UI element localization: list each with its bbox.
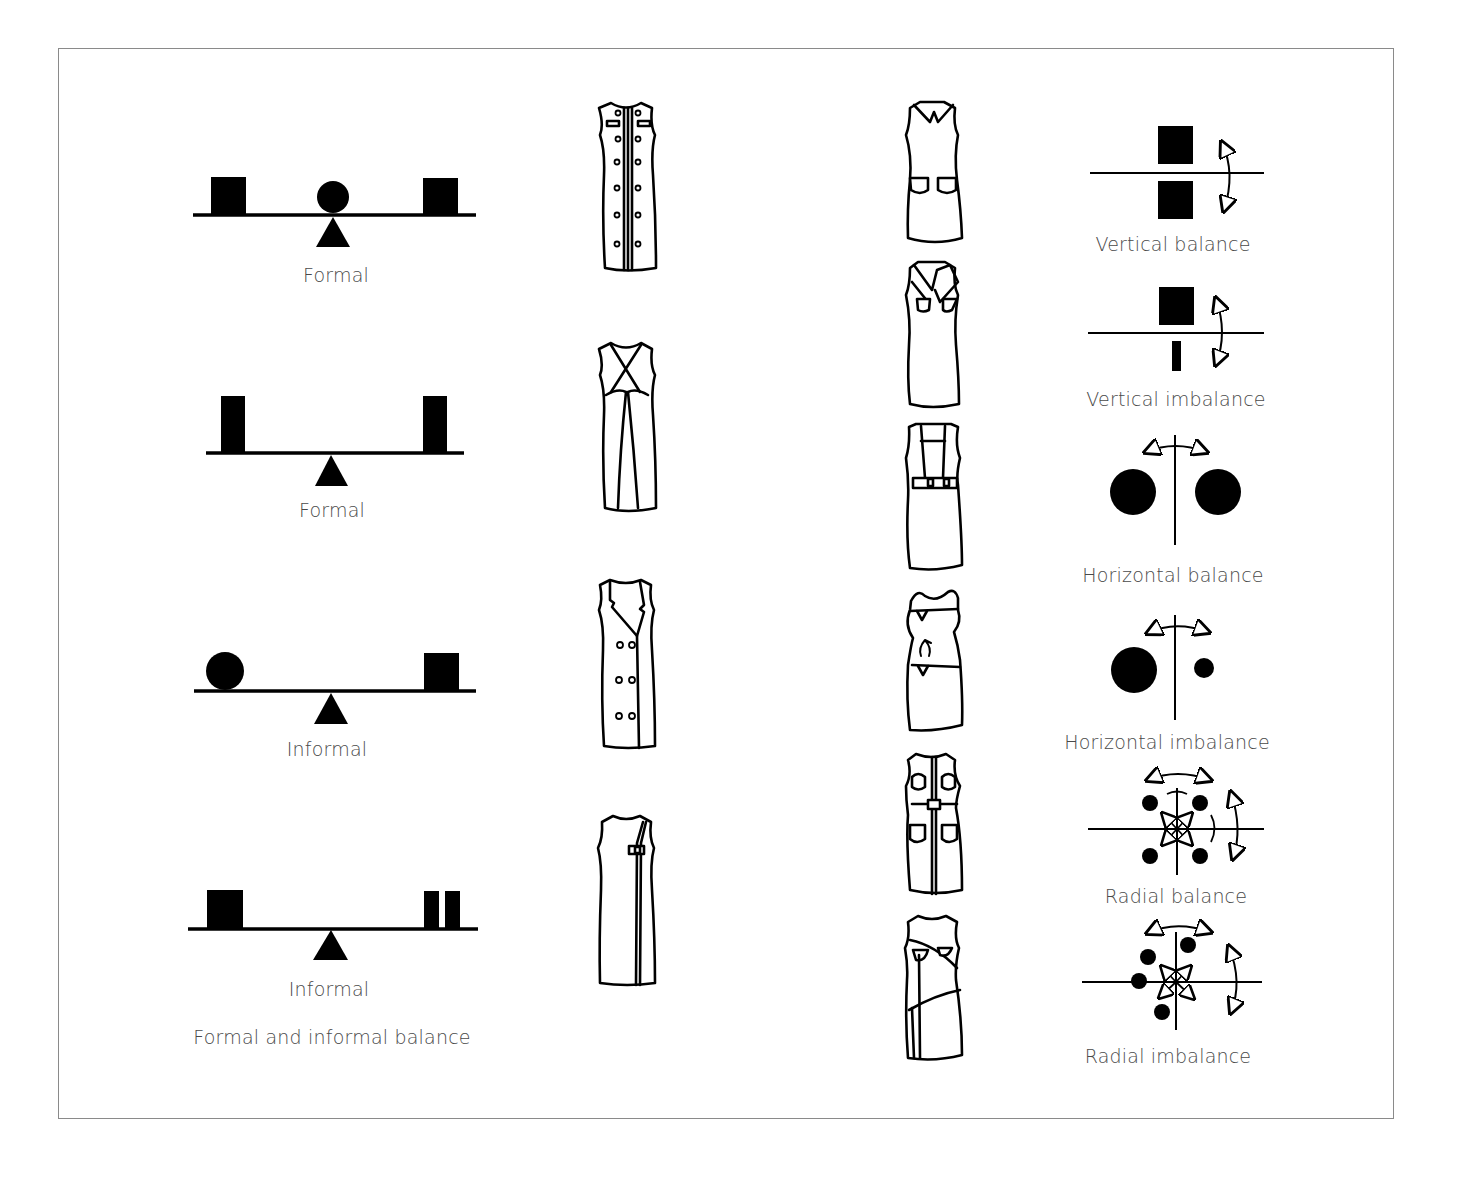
- fulcrum-icon: [316, 217, 350, 247]
- diagram-label: Vertical imbalance: [1086, 388, 1265, 410]
- balance-figure: [0, 0, 1459, 1179]
- seesaw-label: Formal: [303, 264, 369, 286]
- dress-double-breasted-icon: [599, 103, 656, 271]
- dress-collar-patch-pocket-icon: [906, 102, 962, 242]
- fulcrum-icon: [313, 930, 348, 960]
- seesaw-informal-2: [188, 890, 478, 960]
- fulcrum-icon: [315, 455, 348, 486]
- diagram-label: Radial balance: [1105, 885, 1247, 907]
- radial-imbalance-diagram: [1082, 926, 1262, 1030]
- seesaw-formal-2: [206, 396, 464, 486]
- dress-asymmetric-closure-icon: [598, 816, 655, 985]
- dress-belted-shirt-icon: [906, 754, 962, 894]
- diagram-label: Horizontal balance: [1082, 564, 1263, 586]
- square-weight-icon: [207, 890, 243, 929]
- diagram-label: Horizontal imbalance: [1064, 731, 1270, 753]
- vertical-imbalance-diagram: [1088, 287, 1264, 371]
- horizontal-balance-diagram: [1110, 435, 1241, 545]
- seesaw-formal-1: [193, 177, 476, 247]
- seesaw-label: Informal: [289, 978, 369, 1000]
- narrow-weight-icon: [445, 891, 460, 929]
- diagram-label: Vertical balance: [1095, 233, 1250, 255]
- diagram-label: Radial imbalance: [1085, 1045, 1252, 1067]
- dress-tie-waist-icon: [907, 591, 962, 731]
- dress-lapel-coat-icon: [599, 580, 655, 748]
- horizontal-imbalance-diagram: [1111, 615, 1214, 720]
- radial-balance-diagram: [1088, 774, 1264, 875]
- seesaw-label: Formal: [299, 499, 365, 521]
- narrow-weight-icon: [424, 891, 439, 929]
- circle-weight-icon: [317, 181, 349, 213]
- fulcrum-icon: [314, 693, 348, 724]
- tall-weight-icon: [221, 396, 245, 453]
- dress-asymmetric-yoke-icon: [905, 916, 962, 1059]
- tall-weight-icon: [423, 396, 447, 453]
- circle-weight-icon: [206, 652, 244, 690]
- dress-crossover-icon: [599, 343, 656, 511]
- square-weight-icon: [424, 653, 459, 691]
- seesaw-informal-1: [194, 652, 476, 724]
- square-weight-icon: [211, 177, 246, 215]
- vertical-balance-diagram: [1090, 126, 1264, 219]
- figure-caption: Formal and informal balance: [193, 1026, 470, 1048]
- seesaw-label: Informal: [287, 738, 367, 760]
- dress-wide-collar-icon: [906, 262, 959, 407]
- square-weight-icon: [423, 178, 458, 215]
- dress-suspender-belted-icon: [906, 424, 962, 569]
